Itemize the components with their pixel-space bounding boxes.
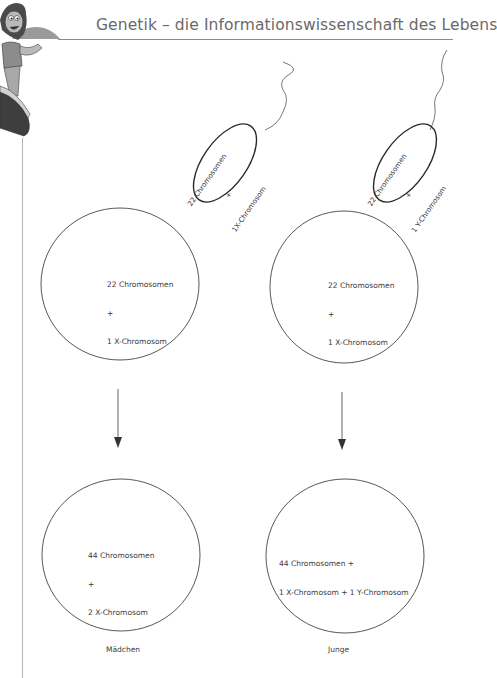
zygote-boy-line2: 1 X-Chromosom + 1 Y-Chromosom — [279, 588, 409, 598]
zygote-girl-label: 44 Chromosomen + 2 X-Chromosom — [88, 532, 155, 627]
zygote-boy-label: 44 Chromosomen + 1 X-Chromosom + 1 Y-Chr… — [279, 540, 409, 607]
caption-boy: Junge — [328, 645, 349, 654]
zygote-girl-line1: 44 Chromosomen — [88, 551, 155, 561]
arrow-down-icon-right — [338, 392, 346, 450]
zygote-girl-line3: 2 X-Chromosom — [88, 608, 155, 618]
arrow-down-icon-left — [114, 389, 122, 448]
sperm-x-line2: + — [199, 156, 258, 235]
egg-left-label: 22 Chromosomen + 1 X-Chromosom — [107, 261, 174, 356]
zygote-girl-line2: + — [88, 580, 155, 590]
egg-left-line3: 1 X-Chromosom — [107, 337, 174, 347]
sperm-y-tail — [430, 50, 447, 130]
sperm-y-line2: + — [379, 156, 438, 235]
zygote-boy-line1: 44 Chromosomen + — [279, 559, 409, 569]
caption-girl: Mädchen — [106, 645, 140, 654]
egg-right-label: 22 Chromosomen + 1 X-Chromosom — [328, 262, 395, 357]
egg-right-line2: + — [328, 310, 395, 320]
egg-left-line1: 22 Chromosomen — [107, 280, 174, 290]
sperm-x-tail — [265, 62, 294, 130]
egg-right-line3: 1 X-Chromosom — [328, 338, 395, 348]
egg-right-line1: 22 Chromosomen — [328, 281, 395, 291]
egg-left-line2: + — [107, 309, 174, 319]
